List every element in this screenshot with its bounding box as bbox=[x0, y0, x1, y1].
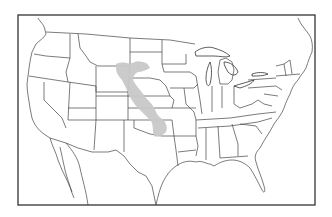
us-map bbox=[0, 0, 332, 217]
map-container: Contiguous United States with state bord… bbox=[0, 0, 332, 217]
